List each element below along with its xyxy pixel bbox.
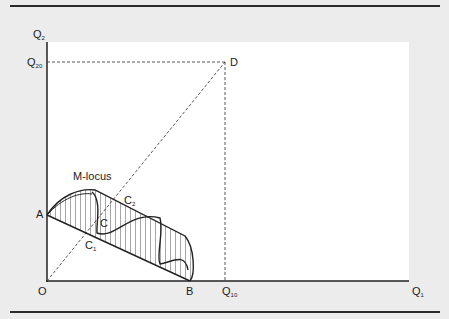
q2-axis-label: Q2 xyxy=(33,29,45,41)
m-locus-label: M-locus xyxy=(73,171,112,182)
q20-label: Q20 xyxy=(27,57,42,69)
c-label: C xyxy=(100,218,108,229)
origin-label: O xyxy=(38,286,47,297)
c1-label: C1 xyxy=(85,240,96,252)
point-a-label: A xyxy=(36,209,43,220)
point-d-label: D xyxy=(230,57,238,68)
point-b-label: B xyxy=(186,286,193,297)
c2-label: C2 xyxy=(124,195,135,207)
diagram-canvas xyxy=(0,0,449,319)
q10-label: Q10 xyxy=(222,286,237,298)
bottom-rule xyxy=(10,311,440,313)
q1-axis-label: Q1 xyxy=(412,286,424,298)
